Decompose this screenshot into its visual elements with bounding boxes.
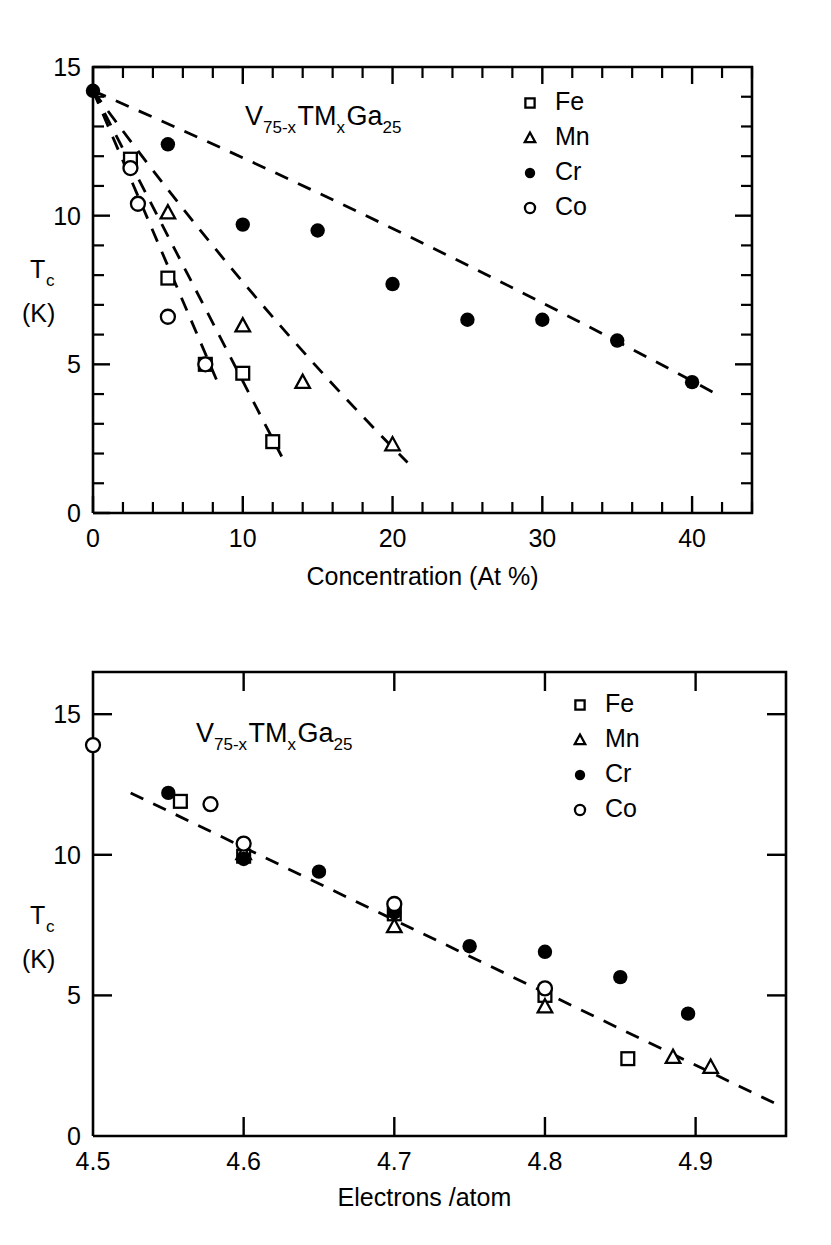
top-chart-legend-item-mn: Mn xyxy=(525,122,590,150)
top-chart-legend-item-cr: Cr xyxy=(525,157,582,185)
bottom-chart-legend-item-fe: Fe xyxy=(575,689,634,717)
bottom-chart-formula-tm: TM xyxy=(249,718,288,748)
top-chart-trend-cr xyxy=(93,91,722,397)
bottom-chart-point-co-2 xyxy=(237,837,251,851)
bottom-chart-point-mn-4 xyxy=(703,1060,718,1073)
top-chart-point-cr-3 xyxy=(310,223,324,237)
top-chart-ytick-label: 0 xyxy=(67,499,81,527)
bottom-chart-point-cr-4 xyxy=(462,939,476,953)
bottom-chart-legend-item-cr: Cr xyxy=(575,759,632,787)
top-chart-point-mn-3 xyxy=(295,375,310,388)
bottom-chart-point-cr-0 xyxy=(161,786,175,800)
top-chart-point-mn-2 xyxy=(236,318,251,331)
open-square-icon xyxy=(575,700,584,709)
bottom-chart-legend-label-fe: Fe xyxy=(605,689,634,717)
bottom-chart-xtick-label: 4.5 xyxy=(76,1147,111,1175)
bottom-chart-point-cr-6 xyxy=(613,970,627,984)
top-chart-xtick-label: 0 xyxy=(86,524,100,552)
top-chart-trend-co xyxy=(93,91,219,385)
top-chart-legend-label-fe: Fe xyxy=(555,87,584,115)
top-chart-point-cr-1 xyxy=(161,137,175,151)
bottom-chart-x-axis-label: Electrons /atom xyxy=(338,1183,512,1211)
bottom-chart-point-cr-2 xyxy=(312,864,326,878)
top-chart-formula: V75-xTMxGa25 xyxy=(245,101,402,137)
top-chart-y-axis-units: (K) xyxy=(22,299,55,327)
bottom-chart-formula-tm-sub: x xyxy=(288,735,297,754)
top-chart-formula-tm: TM xyxy=(298,101,337,131)
bottom-chart-y-axis-label: Tc(K) xyxy=(22,901,55,973)
bottom-chart-legend-label-mn: Mn xyxy=(605,724,640,752)
bottom-chart-formula-ga-sub: 25 xyxy=(334,735,353,754)
open-circle-icon xyxy=(575,805,585,815)
top-chart-formula-ga: Ga xyxy=(347,101,384,131)
top-chart-point-co-1 xyxy=(123,161,137,175)
bottom-chart-xtick-label: 4.7 xyxy=(377,1147,412,1175)
top-chart-formula-v-sub: 75-x xyxy=(263,118,297,137)
bottom-chart-y-axis-label-sub: c xyxy=(46,917,55,936)
top-chart-point-fe-5 xyxy=(266,435,279,448)
bottom-chart-ytick-label: 0 xyxy=(67,1122,81,1150)
top-chart-point-cr-2 xyxy=(236,217,250,231)
top-chart-point-co-4 xyxy=(198,357,212,371)
open-circle-icon xyxy=(525,203,535,213)
top-chart-y-axis-label-t: T xyxy=(30,255,45,283)
top-chart-point-fe-4 xyxy=(236,367,249,380)
figure-svg: 051015010203040Concentration (At %)Tc(K)… xyxy=(0,0,831,1245)
bottom-chart-xtick-label: 4.8 xyxy=(528,1147,563,1175)
bottom-chart-formula-v-sub: 75-x xyxy=(214,735,248,754)
bottom-chart-formula-v: V xyxy=(196,718,214,748)
bottom-chart-formula: V75-xTMxGa25 xyxy=(196,718,353,754)
top-chart-ytick-label: 15 xyxy=(53,53,81,81)
bottom-chart-legend-label-cr: Cr xyxy=(605,759,631,787)
top-chart-point-cr-7 xyxy=(610,333,624,347)
bottom-chart-y-axis-label-t: T xyxy=(30,901,45,929)
top-chart-legend-item-fe: Fe xyxy=(525,87,584,115)
top-chart-y-axis-label-sub: c xyxy=(46,271,55,290)
top-chart-formula-v: V xyxy=(245,101,263,131)
bottom-chart-ytick-label: 10 xyxy=(53,841,81,869)
bottom-chart-formula-ga: Ga xyxy=(298,718,335,748)
bottom-chart-legend-item-mn: Mn xyxy=(575,724,640,752)
top-chart-y-axis-label: Tc(K) xyxy=(22,255,55,327)
top-chart-xtick-label: 20 xyxy=(379,524,407,552)
bottom-chart-point-fe-4 xyxy=(621,1052,634,1065)
bottom-chart-datapoints xyxy=(86,738,718,1073)
bottom-chart-legend-label-co: Co xyxy=(605,794,637,822)
open-square-icon xyxy=(525,98,534,107)
bottom-chart-xtick-label: 4.9 xyxy=(678,1147,713,1175)
top-chart-point-cr-5 xyxy=(460,313,474,327)
bottom-chart: 0510154.54.64.74.84.9Electrons /atomTc(K… xyxy=(22,672,786,1211)
bottom-chart-legend-item-co: Co xyxy=(575,794,637,822)
top-chart-xtick-label: 40 xyxy=(678,524,706,552)
bottom-chart-ytick-label: 15 xyxy=(53,700,81,728)
top-chart-xtick-label: 10 xyxy=(229,524,257,552)
top-chart-legend-label-co: Co xyxy=(555,192,587,220)
top-chart-legend-item-co: Co xyxy=(525,192,587,220)
bottom-chart-point-cr-7 xyxy=(681,1006,695,1020)
top-chart-point-fe-2 xyxy=(161,272,174,285)
bottom-chart-trendline xyxy=(131,793,779,1105)
bottom-chart-point-fe-0 xyxy=(174,795,187,808)
top-chart-ytick-label: 5 xyxy=(67,350,81,378)
top-chart-formula-ga-sub: 25 xyxy=(383,118,402,137)
top-chart-trend-mn xyxy=(93,91,408,463)
bottom-chart-y-axis: 051015 xyxy=(53,700,786,1150)
top-chart-legend: FeMnCrCo xyxy=(525,87,590,220)
top-chart-point-cr-4 xyxy=(385,277,399,291)
top-chart-point-mn-1 xyxy=(161,205,176,218)
bottom-chart-point-co-1 xyxy=(204,797,218,811)
figure-container: 051015010203040Concentration (At %)Tc(K)… xyxy=(0,0,831,1245)
top-chart-formula-tm-sub: x xyxy=(337,118,346,137)
bottom-chart-point-co-4 xyxy=(538,981,552,995)
bottom-chart-point-co-3 xyxy=(387,897,401,911)
bottom-chart-point-co-0 xyxy=(86,738,100,752)
top-chart-ytick-label: 10 xyxy=(53,202,81,230)
filled-circle-icon xyxy=(525,168,535,178)
open-triangle-icon xyxy=(525,133,535,143)
top-chart-x-axis-label: Concentration (At %) xyxy=(306,562,538,590)
bottom-chart-ytick-label: 5 xyxy=(67,981,81,1009)
top-chart-trendlines xyxy=(93,91,722,463)
top-chart-point-cr-6 xyxy=(535,313,549,327)
top-chart-legend-label-mn: Mn xyxy=(555,122,590,150)
top-chart-legend-label-cr: Cr xyxy=(555,157,581,185)
